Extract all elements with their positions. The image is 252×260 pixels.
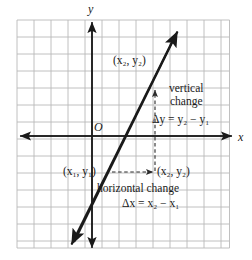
y-axis-label: y [88,3,93,16]
point-2-lower-label: (x₂, y₂) [157,165,190,177]
x-axis-label: x [238,131,243,144]
point-2-upper-text: (x₂, y₂) [113,54,146,66]
slope-diagram-figure: y x O (x₂, y₂) (x₁, y₁) (x₂, y₂) vertica… [0,0,252,260]
point-2-lower-text: (x₂, y₂) [157,165,190,177]
point-1-text: (x₁, y₁) [63,165,96,177]
horizontal-change-label: horizontal change [97,182,179,194]
point-2-upper-label: (x₂, y₂) [113,54,146,66]
vertical-change-line-2: change [170,95,203,107]
point-1-label: (x₁, y₁) [63,165,96,177]
origin-label: O [94,121,103,134]
vertical-change-line-1: vertical [169,82,203,94]
diagram-canvas [0,0,252,260]
delta-y-equation: Δy = y₂ − y₁ [152,113,209,125]
delta-x-equation: Δx = x₂ − x₁ [122,197,179,209]
